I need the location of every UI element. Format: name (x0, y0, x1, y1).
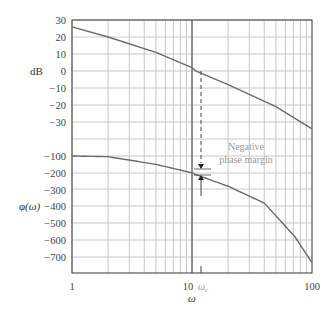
x-tick-10: 10 (183, 281, 194, 292)
y-tick: 20 (56, 32, 67, 43)
axis-ticks: 3020100−10−20−30−100−200−300−400−500−600… (44, 15, 66, 263)
x-tick-100: 100 (304, 281, 320, 292)
y-tick: 0 (61, 66, 66, 77)
magnitude-axis-label: dB (30, 65, 43, 77)
y-tick: 10 (56, 49, 67, 60)
y-tick: −30 (50, 117, 66, 128)
y-tick: −400 (44, 201, 66, 212)
bode-plot: 3020100−10−20−30−100−200−300−400−500−600… (0, 0, 333, 311)
omega-c-label: ωc (198, 281, 209, 294)
y-tick: −300 (44, 185, 66, 196)
y-tick: −700 (44, 252, 66, 263)
x-axis-label: ω (188, 292, 196, 304)
annotation-line1: Negative (228, 141, 265, 152)
y-tick: −200 (44, 168, 66, 179)
y-tick: −600 (44, 235, 66, 246)
grid-lines (72, 20, 312, 273)
phase-axis-label: φ(ω) (19, 200, 41, 213)
annotation-line2: phase margin (219, 154, 272, 165)
x-tick-1: 1 (69, 281, 74, 292)
y-tick: −500 (44, 218, 66, 229)
y-tick: 30 (56, 15, 67, 26)
phase-margin-annotation (194, 71, 211, 273)
y-tick: −10 (50, 83, 66, 94)
y-tick: −20 (50, 100, 66, 111)
y-tick: −100 (44, 151, 66, 162)
